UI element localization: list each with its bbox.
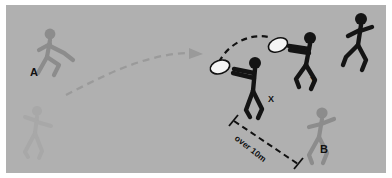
disc-second: [266, 35, 289, 55]
player-a-ghost-figure: [25, 106, 51, 158]
player-label-y: Y: [310, 76, 316, 85]
throw-arc-x-to-y: [219, 36, 272, 62]
diagram-root: A B X Y over 10m: [0, 0, 392, 178]
diagram-canvas: [6, 5, 386, 173]
playing-field: A B X Y over 10m: [6, 5, 386, 173]
player-a-figure: [38, 29, 73, 75]
player-label-x: X: [268, 95, 274, 104]
player-y-runner-figure: [343, 13, 372, 70]
throw-arc-a-to-x: [66, 48, 203, 95]
disc-first: [208, 58, 231, 77]
player-x-figure: [233, 57, 262, 118]
player-label-a: A: [30, 67, 38, 78]
player-label-b: B: [320, 144, 328, 155]
